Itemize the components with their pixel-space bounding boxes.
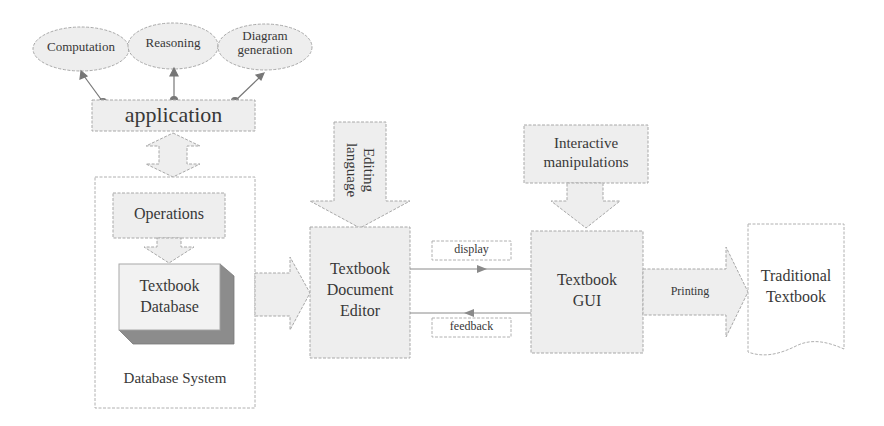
editor-line3: Editor [310,301,410,322]
traditional-line2: Textbook [748,287,844,308]
application-label: application [92,103,255,127]
language-line: language [343,143,360,197]
editor-line1: Textbook [310,259,410,280]
interactive-arrow [551,183,620,228]
bidirectional-arrow [146,133,200,177]
database-system-label: Database System [95,370,255,387]
diagram-generation-label: Diagram generation [218,29,312,58]
display-label: display [432,243,511,256]
gui-label: Textbook GUI [531,270,643,312]
diagram-generation-line1: Diagram [218,29,312,43]
interactive-line2: manipulations [524,153,648,172]
editor-line2: Document [310,280,410,301]
database-line1: Textbook [119,276,220,297]
feedback-label: feedback [432,320,511,333]
gui-line1: Textbook [531,270,643,291]
interactive-line1: Interactive [524,134,648,153]
database-line2: Database [119,297,220,318]
display-connector [410,265,531,273]
editing-line: Editing [360,143,377,197]
database-to-editor-arrow [255,257,310,330]
feedback-connector [410,309,531,317]
reasoning-label: Reasoning [128,36,218,50]
traditional-textbook-label: Traditional Textbook [748,266,844,308]
database-label: Textbook Database [119,276,220,318]
editor-label: Textbook Document Editor [310,259,410,321]
traditional-line1: Traditional [748,266,844,287]
interactive-label: Interactive manipulations [524,134,648,172]
computation-label: Computation [33,40,129,54]
printing-label: Printing [660,285,720,298]
diagram-generation-line2: generation [218,43,312,57]
operations-label: Operations [113,205,225,223]
editing-language-label: Editing language [322,140,398,200]
gui-line2: GUI [531,291,643,312]
